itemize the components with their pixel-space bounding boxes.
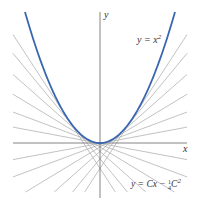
tangent-family-label: y = Cx − 14C2 xyxy=(131,177,181,191)
y-axis-label: y xyxy=(104,9,108,20)
x-axis-label: x xyxy=(183,143,187,154)
envelope-diagram xyxy=(0,0,200,201)
parabola-label: y = x2 xyxy=(137,33,161,45)
